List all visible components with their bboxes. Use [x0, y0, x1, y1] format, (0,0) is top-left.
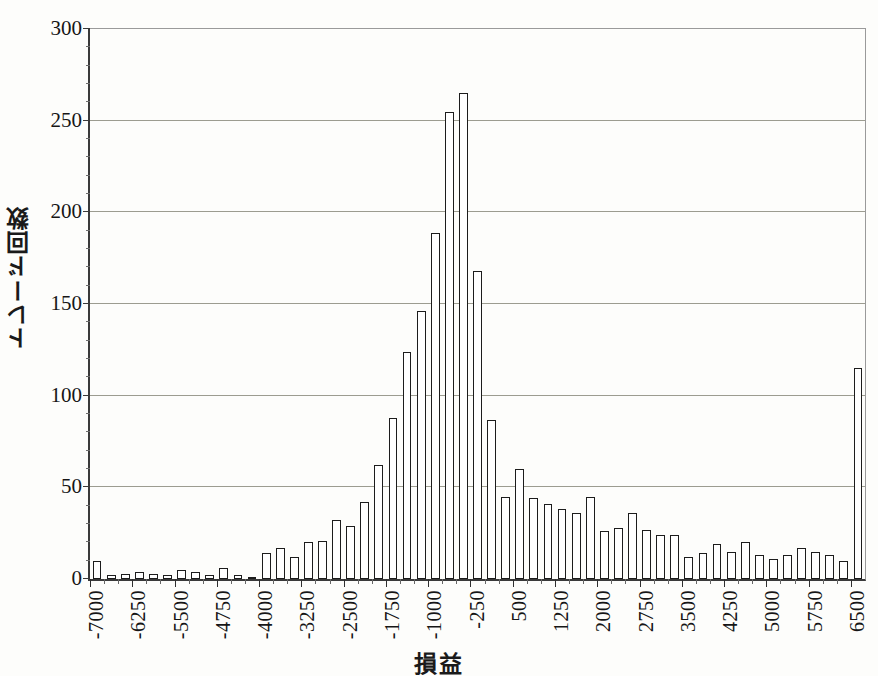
bar: [628, 513, 637, 579]
bar: [177, 570, 186, 579]
y-tick-mark: [83, 303, 90, 304]
x-tick-minor: [146, 579, 147, 584]
x-tick-minor: [372, 579, 373, 584]
bar: [219, 568, 228, 579]
bar: [304, 542, 313, 579]
x-tick-minor: [569, 579, 570, 584]
bar: [163, 575, 172, 579]
x-tick-label: -3250: [296, 590, 319, 639]
bar: [332, 520, 341, 579]
bar: [403, 352, 412, 579]
bar: [811, 552, 820, 580]
x-tick-mark: [132, 579, 133, 587]
x-tick-minor: [654, 579, 655, 584]
bar: [586, 497, 595, 580]
y-tick-mark: [83, 211, 90, 212]
bar: [431, 233, 440, 580]
bar: [346, 526, 355, 579]
bar: [107, 575, 116, 579]
bar: [318, 541, 327, 580]
bar: [713, 544, 722, 579]
x-tick-minor: [245, 579, 246, 584]
x-tick-label: 2750: [635, 590, 658, 632]
x-tick-minor: [160, 579, 161, 584]
bar: [459, 93, 468, 579]
y-tick-label: 250: [51, 107, 83, 132]
x-tick-label: 6500: [846, 590, 869, 632]
x-tick-minor: [527, 579, 528, 584]
bar: [656, 535, 665, 579]
y-tick-mark: [83, 486, 90, 487]
x-tick-label: 1250: [550, 590, 573, 632]
x-tick-minor: [442, 579, 443, 584]
x-tick-label: 3500: [677, 590, 700, 632]
x-tick-minor: [668, 579, 669, 584]
bar: [248, 577, 257, 579]
bar: [149, 574, 158, 580]
x-tick-minor: [330, 579, 331, 584]
bar: [614, 528, 623, 579]
x-axis-title: 損益: [0, 645, 878, 676]
x-tick-mark: [175, 579, 176, 587]
x-tick-minor: [400, 579, 401, 584]
bar: [501, 497, 510, 580]
x-tick-label: -2500: [339, 590, 362, 639]
x-tick-label: -250: [466, 590, 489, 629]
x-tick-mark: [301, 579, 302, 587]
x-tick-mark: [724, 579, 725, 587]
x-tick-mark: [513, 579, 514, 587]
x-tick-minor: [315, 579, 316, 584]
bar: [473, 271, 482, 579]
x-tick-mark: [555, 579, 556, 587]
x-tick-minor: [414, 579, 415, 584]
bar: [699, 553, 708, 579]
bar: [135, 572, 144, 579]
x-tick-mark: [217, 579, 218, 587]
x-tick-label: -1000: [423, 590, 446, 639]
x-tick-minor: [231, 579, 232, 584]
bar: [755, 555, 764, 579]
y-tick-label: 50: [61, 474, 82, 499]
y-tick-mark: [83, 28, 90, 29]
bar: [600, 531, 609, 579]
x-tick-minor: [358, 579, 359, 584]
bar: [360, 502, 369, 579]
bar: [529, 498, 538, 579]
x-tick-minor: [583, 579, 584, 584]
y-tick-label: 200: [51, 199, 83, 224]
bar: [741, 542, 750, 579]
bar: [854, 368, 863, 579]
plot-area: [88, 28, 866, 581]
x-tick-minor: [752, 579, 753, 584]
bar: [515, 469, 524, 579]
bar: [276, 548, 285, 579]
x-tick-minor: [485, 579, 486, 584]
bar: [389, 418, 398, 579]
bar-series: [90, 29, 865, 579]
bar: [783, 555, 792, 579]
x-tick-minor: [287, 579, 288, 584]
x-tick-mark: [809, 579, 810, 587]
bar: [205, 575, 214, 579]
y-tick-label: 300: [51, 16, 83, 41]
bar: [93, 561, 102, 579]
x-tick-mark: [386, 579, 387, 587]
bar: [558, 509, 567, 579]
bar: [572, 513, 581, 579]
bar: [417, 311, 426, 579]
x-tick-mark: [682, 579, 683, 587]
x-tick-minor: [611, 579, 612, 584]
bar: [121, 574, 130, 580]
x-tick-minor: [696, 579, 697, 584]
bar: [487, 420, 496, 580]
histogram-figure: トレード回数 050100150200250300 -7000-6250-550…: [0, 0, 878, 676]
x-axis-title-label: 損益: [414, 651, 464, 676]
x-tick-mark: [259, 579, 260, 587]
bar: [839, 561, 848, 579]
x-tick-minor: [710, 579, 711, 584]
x-tick-label: -6250: [127, 590, 150, 639]
y-tick-label: 150: [51, 291, 83, 316]
bar: [234, 575, 243, 579]
x-tick-minor: [189, 579, 190, 584]
x-tick-minor: [625, 579, 626, 584]
